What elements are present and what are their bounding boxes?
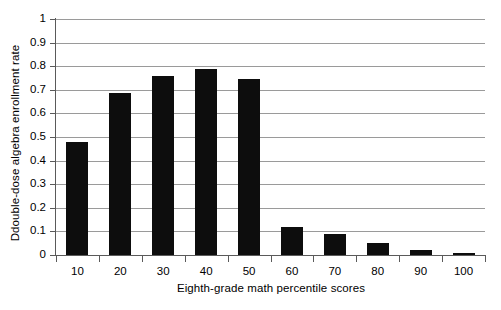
bar — [410, 250, 432, 255]
bar — [324, 234, 346, 255]
x-axis-tick-label: 60 — [270, 265, 314, 277]
bar-chart-figure: Ddouble-dose algebra enrollment rate 00.… — [0, 0, 501, 310]
x-axis-tick-label: 20 — [98, 265, 142, 277]
x-tick-mark — [228, 256, 229, 262]
x-tick-mark — [99, 256, 100, 262]
y-axis-tick-label: 1 — [0, 13, 46, 24]
y-axis-tick-label: 0.8 — [0, 60, 46, 71]
x-tick-mark — [271, 256, 272, 262]
y-axis-tick-label: 0.4 — [0, 155, 46, 166]
x-axis-tick-label: 90 — [399, 265, 443, 277]
gridline — [56, 19, 485, 20]
bar — [453, 253, 475, 255]
y-axis-tick-label: 0.2 — [0, 202, 46, 213]
x-tick-mark — [399, 256, 400, 262]
y-axis-tick-label: 0.6 — [0, 107, 46, 118]
x-axis-tick-label: 70 — [313, 265, 357, 277]
x-axis-tick-label: 80 — [356, 265, 400, 277]
gridline — [56, 90, 485, 91]
x-axis-tick-label: 100 — [442, 265, 486, 277]
x-axis-tick-label: 40 — [184, 265, 228, 277]
x-tick-mark — [313, 256, 314, 262]
x-tick-mark — [356, 256, 357, 262]
bar — [109, 93, 131, 255]
y-axis-tick-label: 0.7 — [0, 84, 46, 95]
bar — [152, 76, 174, 255]
x-tick-mark — [485, 256, 486, 262]
gridline — [56, 66, 485, 67]
y-axis-tick-label: 0.9 — [0, 37, 46, 48]
gridline — [56, 43, 485, 44]
x-tick-mark — [442, 256, 443, 262]
x-tick-mark — [56, 256, 57, 262]
x-tick-mark — [142, 256, 143, 262]
x-axis-tick-label: 10 — [55, 265, 99, 277]
bar — [281, 227, 303, 255]
bar — [66, 142, 88, 255]
x-axis-tick-label: 50 — [227, 265, 271, 277]
x-tick-mark — [185, 256, 186, 262]
bar — [367, 243, 389, 255]
y-axis-tick-label: 0.1 — [0, 225, 46, 236]
plot-area — [56, 19, 485, 255]
x-axis-title: Eighth-grade math percentile scores — [56, 282, 486, 294]
y-axis-tick-label: 0.3 — [0, 178, 46, 189]
y-axis-tick-label: 0.5 — [0, 131, 46, 142]
y-axis-title: Ddouble-dose algebra enrollment rate — [8, 8, 22, 278]
x-axis-tick-label: 30 — [141, 265, 185, 277]
bar — [195, 69, 217, 255]
bar — [238, 79, 260, 255]
y-axis-tick-label: 0 — [0, 249, 46, 260]
